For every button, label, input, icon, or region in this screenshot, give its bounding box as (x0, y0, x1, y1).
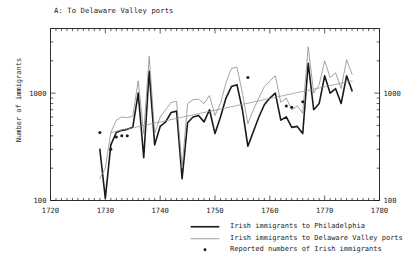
reported-data-point (109, 148, 112, 151)
x-tick-label: 1760 (261, 206, 278, 215)
legend-label-philadelphia: Irish immigrants to Philadelphia (230, 221, 365, 233)
y-tick-label-left: 1000 (29, 89, 46, 98)
x-tick-label: 1720 (42, 206, 59, 215)
reported-data-point (290, 106, 293, 109)
dot-marker-icon (188, 244, 222, 256)
panel-title: A: To Delaware Valley ports (54, 6, 174, 15)
reported-data-point (246, 76, 249, 79)
reported-data-point (285, 104, 288, 107)
x-tick-label: 1780 (371, 206, 388, 215)
thin-line-icon (188, 233, 222, 245)
chart-figure: A: To Delaware Valley ports Number of im… (0, 0, 416, 262)
y-axis-label: Number of immigrants (15, 45, 23, 155)
x-tick-label: 1750 (206, 206, 223, 215)
series-line (100, 47, 352, 179)
reported-data-point (120, 134, 123, 137)
reported-data-point (115, 136, 118, 139)
reported-data-point (301, 100, 304, 103)
y-tick-label-left: 100 (34, 196, 47, 205)
solid-thick-line-icon (188, 221, 222, 233)
reported-data-point (98, 131, 101, 134)
y-tick-label-right: 1000 (384, 89, 401, 98)
x-tick-label: 1740 (152, 206, 169, 215)
x-tick-label: 1730 (97, 206, 114, 215)
x-tick-label: 1770 (316, 206, 333, 215)
y-tick-label-right: 100 (384, 196, 397, 205)
reported-data-point (126, 134, 129, 137)
legend-label-delaware: Irish immigrants to Delaware Valley port… (230, 233, 403, 245)
legend-label-reported: Reported numbers of Irish immigrants (230, 244, 382, 256)
